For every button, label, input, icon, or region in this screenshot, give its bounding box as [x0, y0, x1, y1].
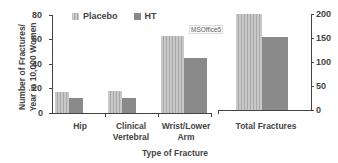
bar-wrist-ht — [184, 58, 207, 113]
y-tick-0: 0 — [38, 108, 43, 118]
tick-mark — [311, 62, 314, 63]
tick-mark — [311, 38, 314, 39]
category-divider — [158, 113, 159, 117]
right-x-axis — [218, 110, 311, 111]
category-divider — [211, 113, 212, 117]
tick-mark — [49, 15, 52, 16]
category-label-total: Total Fractures — [226, 121, 306, 132]
tick-mark — [49, 88, 52, 89]
category-label-hip: Hip — [60, 121, 100, 132]
bar-vertebral-placebo — [108, 91, 122, 113]
tick-mark — [311, 14, 314, 15]
y-tick-20: 20 — [32, 83, 42, 93]
legend-label-placebo: Placebo — [83, 11, 118, 21]
y-tick-80: 80 — [32, 10, 42, 20]
y-axis-label-line-1: Number of Fractures/ — [17, 17, 28, 117]
category-divider — [105, 113, 106, 117]
bar-total-ht — [262, 37, 288, 110]
right-tick-50: 50 — [316, 81, 326, 91]
right-tick-0: 0 — [316, 105, 321, 115]
category-label-vertebral-line-2: Vertebral — [103, 132, 159, 143]
bar-vertebral-ht — [122, 98, 136, 113]
bar-hip-placebo — [55, 92, 69, 113]
right-tick-100: 100 — [316, 57, 331, 67]
left-y-axis — [52, 15, 53, 114]
tick-mark — [49, 39, 52, 40]
x-axis-title: Type of Fracture — [120, 148, 230, 159]
right-tick-150: 150 — [316, 33, 331, 43]
y-tick-40: 40 — [32, 59, 42, 69]
bar-hip-ht — [69, 98, 83, 113]
category-label-wrist-line-1: Wrist/Lower — [155, 121, 217, 132]
legend-label-ht: HT — [145, 11, 157, 21]
legend: Placebo HT — [72, 11, 157, 21]
y-tick-60: 60 — [32, 34, 42, 44]
tick-mark — [49, 64, 52, 65]
msoffice-watermark: MSOffice5 — [189, 25, 223, 34]
category-label-wrist-line-2: Arm — [155, 132, 217, 143]
tick-mark — [311, 86, 314, 87]
category-label-vertebral: Clinical Vertebral — [103, 121, 159, 143]
right-tick-200: 200 — [316, 9, 331, 19]
tick-mark — [311, 110, 314, 111]
left-x-axis — [49, 113, 212, 114]
category-label-vertebral-line-1: Clinical — [103, 121, 159, 132]
bar-total-placebo — [236, 14, 262, 110]
category-label-wrist: Wrist/Lower Arm — [155, 121, 217, 143]
legend-swatch-ht — [134, 13, 141, 20]
bar-wrist-placebo — [161, 36, 184, 113]
legend-swatch-placebo — [72, 13, 79, 20]
category-divider — [218, 110, 219, 114]
